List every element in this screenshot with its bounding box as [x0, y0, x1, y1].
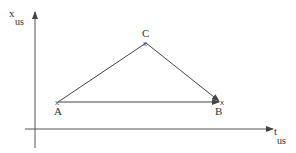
x-axis-label-subscript: us [277, 136, 286, 146]
edge-a-c [58, 43, 146, 102]
point-c-label: C [142, 28, 149, 39]
edge-c-b [146, 43, 219, 101]
point-c-marker: x [143, 39, 147, 48]
point-a-label: A [54, 106, 62, 117]
point-b-label: B [215, 106, 222, 117]
diagram-canvas: x x x [0, 0, 296, 153]
y-axis-label-subscript: us [15, 17, 24, 27]
y-axis-label: x [9, 8, 15, 19]
